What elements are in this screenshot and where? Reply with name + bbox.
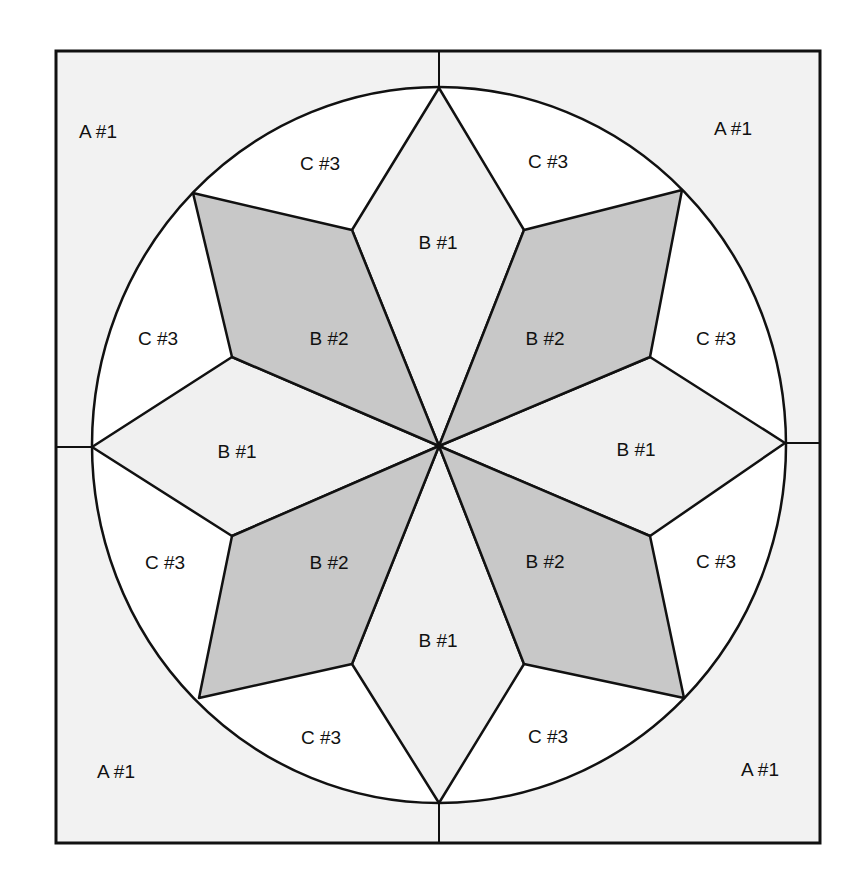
label-c-left-upper: C #3 bbox=[138, 328, 178, 349]
label-a-top-right: A #1 bbox=[714, 118, 752, 139]
label-c-top-right: C #3 bbox=[528, 151, 568, 172]
label-c-right-lower: C #3 bbox=[696, 551, 736, 572]
label-c-top-left: C #3 bbox=[300, 153, 340, 174]
label-c-left-lower: C #3 bbox=[145, 552, 185, 573]
quilt-block-diagram: A #1 A #1 A #1 A #1 C #3 C #3 C #3 C #3 … bbox=[0, 0, 862, 874]
label-b2-bottom-left: B #2 bbox=[309, 552, 348, 573]
label-c-bottom-left: C #3 bbox=[301, 727, 341, 748]
label-b1-left: B #1 bbox=[217, 441, 256, 462]
label-b1-top: B #1 bbox=[418, 232, 457, 253]
label-b1-right: B #1 bbox=[616, 439, 655, 460]
label-c-right-upper: C #3 bbox=[696, 328, 736, 349]
label-b2-bottom-right: B #2 bbox=[525, 551, 564, 572]
label-a-top-left: A #1 bbox=[79, 121, 117, 142]
label-b2-top-right: B #2 bbox=[525, 328, 564, 349]
label-c-bottom-right: C #3 bbox=[528, 726, 568, 747]
label-b1-bottom: B #1 bbox=[418, 630, 457, 651]
label-b2-top-left: B #2 bbox=[309, 328, 348, 349]
label-a-bottom-left: A #1 bbox=[97, 761, 135, 782]
label-a-bottom-right: A #1 bbox=[741, 759, 779, 780]
